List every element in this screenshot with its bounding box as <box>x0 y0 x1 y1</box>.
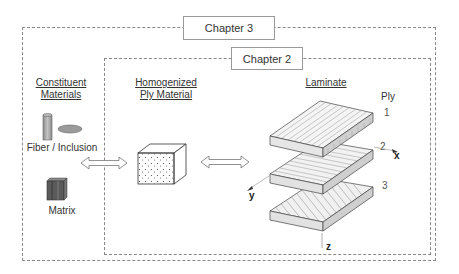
y-axis-line <box>249 174 272 189</box>
double-arrow-icon <box>201 156 249 168</box>
ellipse-icon <box>58 125 82 133</box>
cylinder-icon <box>43 114 52 141</box>
matrix-block-icon <box>47 178 67 200</box>
double-arrow-icon <box>81 157 127 169</box>
y-axis-arrowhead <box>247 186 253 191</box>
dotted-cube-icon <box>138 144 186 184</box>
x-axis-arrowhead <box>392 149 398 153</box>
x-axis-line <box>374 147 395 151</box>
diagram-art <box>0 0 459 274</box>
